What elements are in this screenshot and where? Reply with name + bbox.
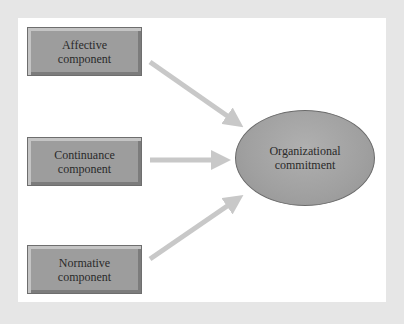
diagram-frame: Affective component Continuance componen… bbox=[0, 0, 404, 324]
organizational-commitment-ellipse: Organizational commitment bbox=[235, 110, 375, 206]
affective-component-box: Affective component bbox=[27, 27, 142, 76]
normative-label-line1: Normative bbox=[58, 256, 111, 270]
continuance-component-box: Continuance component bbox=[27, 137, 142, 186]
continuance-label-line1: Continuance bbox=[54, 148, 115, 162]
normative-label-line2: component bbox=[58, 270, 111, 284]
affective-label-line2: component bbox=[58, 52, 111, 66]
commitment-label-line2: commitment bbox=[269, 158, 340, 172]
commitment-label-line1: Organizational bbox=[269, 144, 340, 158]
affective-label-line1: Affective bbox=[58, 38, 111, 52]
continuance-label-line2: component bbox=[54, 162, 115, 176]
normative-component-box: Normative component bbox=[27, 245, 142, 294]
arrow-affective-to-commitment bbox=[150, 62, 236, 122]
arrow-normative-to-commitment bbox=[150, 200, 236, 259]
